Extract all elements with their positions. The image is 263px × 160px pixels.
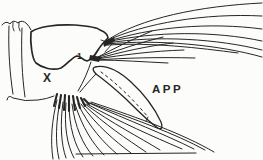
dorsal-setae-fan (103, 3, 262, 57)
figure-canvas: X APP 1 (0, 0, 263, 160)
saddle-seta-label: 1 (77, 51, 82, 61)
appendage-label: APP (152, 83, 183, 95)
segment-x-label: X (43, 71, 51, 85)
larva-anatomy-illustration: X APP 1 (0, 0, 263, 160)
ground-line (76, 153, 196, 154)
body-segment-outline (2, 21, 96, 100)
paddle-midrib-dashed (101, 72, 148, 117)
saddle-plate (31, 25, 112, 69)
ventral-brush (52, 94, 214, 159)
